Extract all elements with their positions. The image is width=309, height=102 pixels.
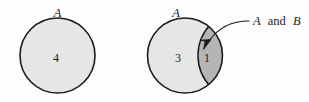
callout-label-and: and: [268, 14, 287, 28]
diagram-canvas: A 4 A 3 1 A: [0, 0, 309, 102]
right-only-a-count: 3: [175, 51, 181, 65]
venn-diagram-figure: A 4 A 3 1 A: [0, 0, 309, 102]
left-set-a-count: 4: [53, 51, 59, 65]
left-set-a-label: A: [53, 5, 62, 20]
callout-label: A and B: [252, 14, 301, 28]
callout-label-b: B: [293, 14, 301, 28]
right-set-a-label: A: [171, 5, 180, 20]
callout-label-a: A: [252, 14, 261, 28]
right-intersection-count: 1: [204, 51, 210, 65]
